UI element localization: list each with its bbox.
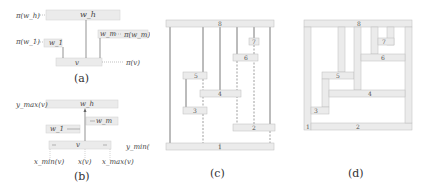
region-3-col <box>322 79 329 107</box>
panel-b: y_max(v) y_min(v) x_min(v) x(v) x_max(v)… <box>0 0 150 187</box>
box-label-1: 1 <box>218 143 222 150</box>
region-2-right <box>405 27 412 123</box>
region-label-1: 1 <box>306 123 310 130</box>
region-label-4: 4 <box>368 90 372 97</box>
box-label-8: 8 <box>218 20 222 27</box>
region-5-col <box>338 27 345 72</box>
box-v <box>49 141 111 149</box>
region-4-col <box>354 27 361 90</box>
panel-d: 8 1 2 3 4 5 6 7 (d) <box>290 0 428 187</box>
label-wh: w_h <box>80 100 94 108</box>
panel-c: 8 7 6 5 4 3 2 1 (c) <box>160 0 290 187</box>
region-6-col <box>371 27 378 54</box>
region-label-2: 2 <box>356 123 360 130</box>
region-4 <box>329 90 405 97</box>
caption-b: (b) <box>74 170 90 183</box>
region-label-8: 8 <box>357 20 361 27</box>
box-label-5: 5 <box>194 72 198 79</box>
region-7 <box>378 38 394 45</box>
label-wm: w_m <box>96 117 112 125</box>
label-v: v <box>76 141 80 149</box>
region-label-6: 6 <box>381 54 385 61</box>
box-label-2: 2 <box>252 124 256 131</box>
diagram-d: 8 1 2 3 4 5 6 7 (d) <box>290 0 428 187</box>
label-xmax: x_max(v) <box>102 158 134 166</box>
region-2-bottom <box>311 123 412 130</box>
box-label-4: 4 <box>218 90 222 97</box>
caption-c: (c) <box>210 167 225 180</box>
region-1 <box>304 27 311 130</box>
box-label-3: 3 <box>193 107 197 114</box>
label-w1: w_1 <box>50 125 64 133</box>
label-ymax: y_max(v) <box>15 101 48 109</box>
caption-d: (d) <box>348 167 364 180</box>
diagram-b: y_max(v) y_min(v) x_min(v) x(v) x_max(v)… <box>0 0 150 187</box>
label-xv: x(v) <box>78 158 92 166</box>
box-label-7: 7 <box>252 38 256 45</box>
label-ymin: y_min(v) <box>125 143 150 151</box>
region-label-5: 5 <box>336 72 340 79</box>
diagram-c: 8 7 6 5 4 3 2 1 (c) <box>160 0 290 187</box>
box-label-6: 6 <box>244 54 248 61</box>
label-xmin: x_min(v) <box>34 158 65 166</box>
region-label-3: 3 <box>314 107 318 114</box>
region-label-7: 7 <box>382 38 386 45</box>
